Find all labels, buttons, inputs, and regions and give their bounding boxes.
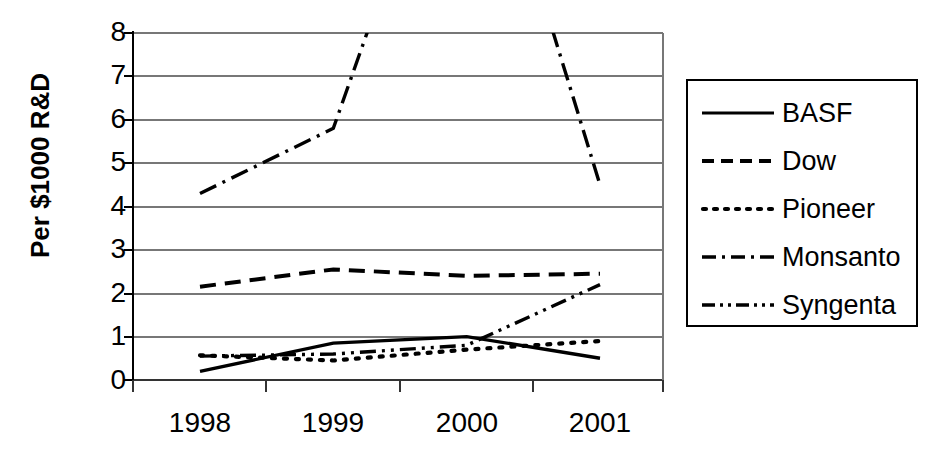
series-line-basf — [200, 337, 600, 372]
chart-container: Per $1000 R&D 8 7 6 5 4 3 2 1 0 1998 199… — [0, 0, 939, 467]
series-line-dow — [200, 269, 600, 286]
series-line-monsanto — [200, 0, 600, 194]
legend-swatch-dash-dot-dot-icon — [700, 294, 776, 316]
series-lines — [200, 0, 600, 371]
y-axis-line — [124, 31, 133, 382]
legend-item-syngenta[interactable]: Syngenta — [688, 283, 920, 327]
legend-label-monsanto: Monsanto — [782, 244, 901, 271]
legend-label-dow: Dow — [782, 148, 836, 175]
gridlines — [133, 33, 663, 380]
chart-legend: BASF Dow Pioneer Mon — [686, 79, 918, 327]
legend-swatch-dotted-icon — [700, 198, 776, 220]
legend-swatch-dash-dot-icon — [700, 246, 776, 268]
x-axis-ticks — [133, 380, 663, 392]
legend-swatch-solid-icon — [700, 102, 776, 124]
legend-label-basf: BASF — [782, 100, 853, 127]
legend-label-pioneer: Pioneer — [782, 196, 875, 223]
legend-label-syngenta: Syngenta — [782, 292, 896, 319]
legend-item-basf[interactable]: BASF — [688, 91, 920, 135]
legend-item-dow[interactable]: Dow — [688, 139, 920, 183]
legend-item-monsanto[interactable]: Monsanto — [688, 235, 920, 279]
legend-item-pioneer[interactable]: Pioneer — [688, 187, 920, 231]
legend-swatch-dashed-icon — [700, 150, 776, 172]
